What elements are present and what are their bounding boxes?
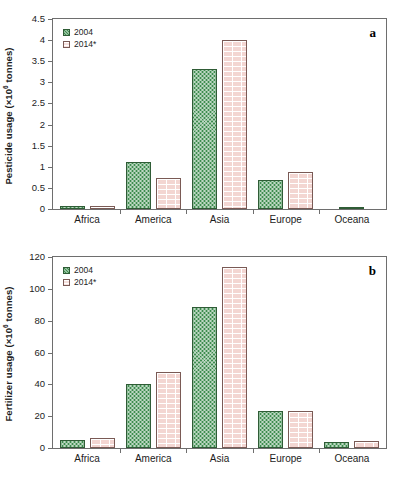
y-axis-title-a-pre: Pesticide usage (×10 <box>3 89 14 185</box>
bars-container-a <box>53 19 386 209</box>
y-axis-tick: 2.5 <box>48 103 53 104</box>
bar-oceana-2014 <box>354 441 379 448</box>
panel-b: Fertilizer usage (×106 tonnes) 2004 2014… <box>0 244 399 481</box>
bar-group <box>121 257 187 448</box>
bar-group <box>187 257 253 448</box>
bar-asia-2004 <box>192 307 217 448</box>
y-axis-tick-label: 1.5 <box>32 140 45 151</box>
bar-europe-2004 <box>258 180 283 209</box>
y-axis-tick: 1.5 <box>48 146 53 147</box>
y-axis-tick: 80 <box>48 321 53 322</box>
bar-group <box>252 257 318 448</box>
y-axis-tick: 4.5 <box>48 19 53 20</box>
bar-asia-2014 <box>222 40 247 209</box>
y-axis-title-b-pre: Fertilizer usage (×10 <box>3 328 14 422</box>
y-axis-tick: 20 <box>48 416 53 417</box>
y-axis-title-b: Fertilizer usage (×106 tonnes) <box>2 256 16 452</box>
bars-container-b <box>53 257 386 448</box>
panel-a: Pesticide usage (×106 tonnes) 2004 2014*… <box>0 4 399 240</box>
figure: Pesticide usage (×106 tonnes) 2004 2014*… <box>0 0 399 481</box>
x-axis-label-asia: Asia <box>186 214 252 225</box>
y-axis-tick: 0 <box>48 209 53 210</box>
x-axis-label-europe: Europe <box>253 453 319 464</box>
y-axis-tick-label: 20 <box>34 410 45 421</box>
plot-area-b: 2004 2014* b 020406080100120 <box>52 256 387 449</box>
y-axis-tick-label: 80 <box>34 315 45 326</box>
y-axis-tick-label: 1 <box>40 161 45 172</box>
bar-america-2014 <box>156 178 181 209</box>
x-axis-label-africa: Africa <box>54 214 120 225</box>
bar-group <box>121 19 187 209</box>
bar-africa-2004 <box>60 206 85 209</box>
bar-group <box>187 19 253 209</box>
bar-asia-2014 <box>222 267 247 448</box>
bar-europe-2014 <box>288 411 313 448</box>
y-axis-tick-label: 0 <box>40 442 45 453</box>
y-axis-tick-label: 2.5 <box>32 97 45 108</box>
y-axis-tick-label: 120 <box>29 251 45 262</box>
bar-oceana-2004 <box>324 442 349 448</box>
y-axis-tick: 1 <box>48 167 53 168</box>
y-axis-tick: 60 <box>48 353 53 354</box>
bar-africa-2004 <box>60 440 85 448</box>
bar-group <box>252 19 318 209</box>
x-axis-labels-b: AfricaAmericaAsiaEuropeOceana <box>52 453 387 464</box>
bar-america-2014 <box>156 372 181 448</box>
y-axis-tick: 2 <box>48 125 53 126</box>
x-axis-label-oceana: Oceana <box>319 453 385 464</box>
bar-group <box>318 257 384 448</box>
y-axis-tick: 3.5 <box>48 61 53 62</box>
y-axis-tick-label: 0.5 <box>32 182 45 193</box>
y-axis-tick: 100 <box>48 289 53 290</box>
y-axis-tick-label: 3.5 <box>32 55 45 66</box>
y-axis-tick-label: 4 <box>40 34 45 45</box>
y-axis-tick-label: 2 <box>40 119 45 130</box>
x-axis-label-asia: Asia <box>186 453 252 464</box>
y-axis-tick: 120 <box>48 257 53 258</box>
x-axis-labels-a: AfricaAmericaAsiaEuropeOceana <box>52 214 387 225</box>
y-axis-tick: 0.5 <box>48 188 53 189</box>
plot-area-a: 2004 2014* a 00.511.522.533.544.5 <box>52 18 387 210</box>
x-axis-label-europe: Europe <box>253 214 319 225</box>
y-axis-title-a: Pesticide usage (×106 tonnes) <box>2 18 16 214</box>
y-axis-tick-label: 60 <box>34 347 45 358</box>
y-axis-tick: 0 <box>48 448 53 449</box>
bar-europe-2004 <box>258 411 283 448</box>
y-axis-title-b-exponent: 6 <box>2 324 9 328</box>
y-axis-title-a-post: tonnes) <box>3 47 14 85</box>
y-axis-tick: 4 <box>48 40 53 41</box>
x-axis-label-africa: Africa <box>54 453 120 464</box>
x-axis-label-america: America <box>120 453 186 464</box>
bar-asia-2004 <box>192 69 217 209</box>
y-axis-title-a-exponent: 6 <box>2 85 9 89</box>
y-axis-tick-label: 40 <box>34 378 45 389</box>
bar-america-2004 <box>126 384 151 448</box>
bar-america-2004 <box>126 162 151 209</box>
bar-africa-2014 <box>90 438 115 448</box>
x-axis-label-oceana: Oceana <box>319 214 385 225</box>
bar-group <box>318 19 384 209</box>
bar-europe-2014 <box>288 172 313 209</box>
y-axis-tick-label: 3 <box>40 76 45 87</box>
bar-africa-2014 <box>90 206 115 209</box>
y-axis-tick-label: 0 <box>40 203 45 214</box>
y-axis-tick: 3 <box>48 82 53 83</box>
bar-oceana-2004 <box>339 207 364 209</box>
bar-group <box>55 19 121 209</box>
y-axis-tick-label: 100 <box>29 283 45 294</box>
y-axis-tick-label: 4.5 <box>32 13 45 24</box>
bar-group <box>55 257 121 448</box>
y-axis-title-b-post: tonnes) <box>3 286 14 324</box>
y-axis-tick: 40 <box>48 384 53 385</box>
x-axis-label-america: America <box>120 214 186 225</box>
